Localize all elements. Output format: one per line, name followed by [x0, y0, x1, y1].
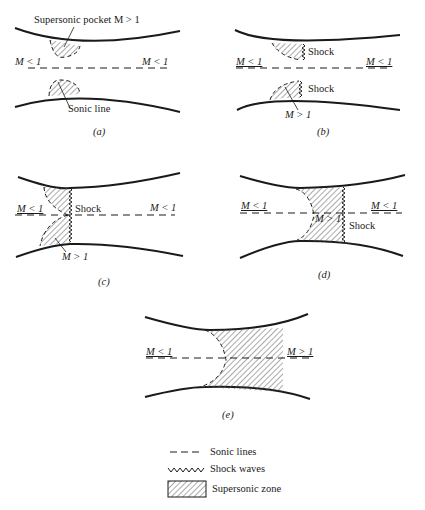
upper-wall [235, 30, 400, 40]
lower-wall [237, 101, 400, 110]
label-d-right-mach: M < 1 [371, 201, 397, 212]
lower-wall [240, 241, 403, 258]
caption-a: (a) [93, 127, 105, 138]
panel-c [15, 173, 183, 257]
label-d-shock: Shock [349, 221, 375, 232]
upper-wall [18, 173, 180, 188]
label-sonic-line: Sonic line [68, 104, 110, 115]
caption-e: (e) [222, 410, 234, 421]
supersonic-zone [200, 328, 283, 392]
supersonic-zone-top [272, 43, 303, 60]
upper-wall [240, 175, 405, 188]
supersonic-zone [40, 187, 70, 246]
label-b-mach-inside: M > 1 [285, 110, 311, 121]
caption-b: (b) [317, 127, 329, 138]
panel-b [235, 30, 400, 110]
supersonic-zone-bottom [270, 81, 300, 100]
upper-wall [15, 28, 180, 41]
label-c-right-mach: M < 1 [150, 203, 176, 214]
label-b-right-mach: M < 1 [366, 57, 392, 68]
caption-d: (d) [318, 270, 330, 281]
label-e-left-mach: M < 1 [146, 347, 172, 358]
legend-supersonic-zone: Supersonic zone [212, 484, 281, 495]
legend-shock-symbol [168, 468, 204, 472]
upper-wall [145, 314, 308, 330]
caption-c: (c) [98, 277, 110, 288]
legend [168, 452, 206, 497]
legend-shock-waves: Shock waves [210, 464, 265, 475]
label-d-mach-inside: M > 1 [315, 214, 341, 225]
label-supersonic-pocket: Supersonic pocket M > 1 [34, 15, 140, 26]
label-c-mach-inside: M > 1 [62, 252, 88, 263]
label-a-right-mach: M < 1 [142, 57, 168, 68]
label-c-shock: Shock [75, 204, 101, 215]
supersonic-pocket-top [50, 40, 80, 57]
label-e-right-mach: M > 1 [287, 347, 313, 358]
legend-sonic-lines: Sonic lines [210, 447, 256, 458]
label-b-shock-bottom: Shock [308, 84, 334, 95]
shock [342, 187, 345, 243]
label-a-left-mach: M < 1 [15, 57, 41, 68]
panel-a [15, 27, 180, 112]
label-c-left-mach: M < 1 [17, 204, 43, 215]
label-b-left-mach: M < 1 [236, 57, 262, 68]
label-b-shock-top: Shock [308, 47, 334, 58]
legend-supersonic-symbol [168, 481, 206, 497]
label-d-left-mach: M < 1 [241, 201, 267, 212]
